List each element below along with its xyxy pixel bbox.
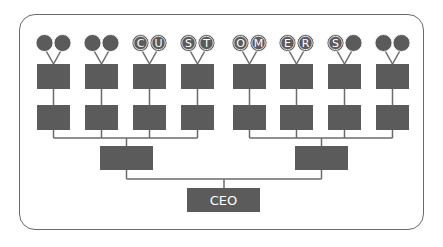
- customer-letter: S: [332, 37, 339, 50]
- customer-circle: [345, 35, 362, 52]
- staff-box: [181, 105, 214, 130]
- staff-box: [85, 105, 118, 130]
- customer-letter: M: [254, 37, 264, 50]
- front-line-box: [376, 64, 409, 89]
- customer-circle: [36, 35, 53, 52]
- customer-letter: C: [137, 37, 145, 50]
- customer-circle: [393, 35, 410, 52]
- manager-box-left: [100, 146, 153, 170]
- front-line-box: [85, 64, 118, 89]
- ceo-label: CEO: [210, 193, 238, 208]
- customer-letter: S: [185, 37, 192, 50]
- customer-circle: [54, 35, 71, 52]
- manager-box-right: [295, 146, 348, 170]
- staff-box: [37, 105, 70, 130]
- org-chart: CEOCUSTOMERS: [0, 0, 443, 247]
- front-line-box: [37, 64, 70, 89]
- front-line-box: [280, 64, 313, 89]
- staff-box: [133, 105, 166, 130]
- front-line-box: [233, 64, 266, 89]
- customer-circle: [84, 35, 101, 52]
- customer-letter: R: [302, 37, 310, 50]
- staff-box: [280, 105, 313, 130]
- staff-box: [233, 105, 266, 130]
- customer-letter: U: [154, 37, 162, 50]
- staff-box: [376, 105, 409, 130]
- customer-letter: T: [202, 37, 210, 50]
- staff-box: [328, 105, 361, 130]
- customer-letter: E: [284, 37, 291, 50]
- customer-letter: O: [236, 37, 245, 50]
- customer-circle: [375, 35, 392, 52]
- front-line-box: [133, 64, 166, 89]
- front-line-box: [181, 64, 214, 89]
- customer-circle: [102, 35, 119, 52]
- front-line-box: [328, 64, 361, 89]
